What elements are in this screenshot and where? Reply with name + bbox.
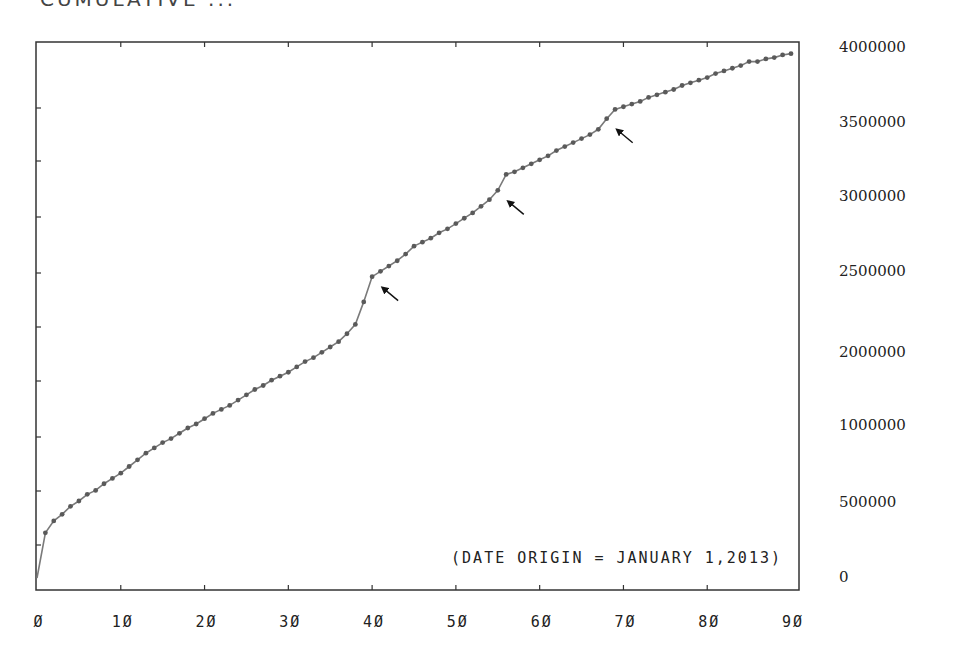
data-point (378, 269, 383, 274)
data-point (562, 144, 567, 149)
data-point (722, 68, 727, 73)
data-point (579, 136, 584, 141)
data-point (696, 78, 701, 83)
data-point (118, 471, 123, 476)
data-point (303, 359, 308, 364)
data-point (336, 339, 341, 344)
data-point (269, 378, 274, 383)
y-tick-label: 2500000 (839, 262, 906, 280)
data-point (319, 350, 324, 355)
data-point (194, 422, 199, 427)
y-tick-label: 2000000 (839, 343, 906, 361)
data-point (211, 411, 216, 416)
x-tick-label: 6Ø (531, 613, 553, 631)
data-point (286, 370, 291, 375)
x-axis-labels: Ø1Ø2Ø3Ø4Ø5Ø6Ø7Ø8Ø9Ø (33, 613, 804, 631)
x-tick-label: Ø (33, 613, 44, 631)
x-tick-label: 4Ø (363, 613, 385, 631)
line-chart: Ø1Ø2Ø3Ø4Ø5Ø6Ø7Ø8Ø9Ø 40000003500000300000… (0, 0, 960, 655)
arrow-icon (512, 204, 524, 214)
data-point (772, 55, 777, 60)
data-point (546, 153, 551, 158)
data-point (680, 83, 685, 88)
y-tick-label: 1000000 (839, 416, 906, 434)
data-point (445, 226, 450, 231)
data-point (705, 75, 710, 80)
data-point (152, 446, 157, 451)
data-point-markers (43, 51, 793, 535)
x-tick-label: 1Ø (112, 613, 134, 631)
data-point (219, 407, 224, 412)
x-axis-ticks (121, 42, 707, 590)
data-point (328, 345, 333, 350)
x-tick-label: 3Ø (279, 613, 301, 631)
y-tick-label: 500000 (839, 493, 896, 511)
data-point (278, 374, 283, 379)
data-point (479, 204, 484, 209)
data-point (588, 132, 593, 137)
data-point (529, 161, 534, 166)
arrow-icon (386, 291, 398, 301)
data-point (202, 416, 207, 421)
data-point (370, 274, 375, 279)
data-point (395, 258, 400, 263)
data-point (504, 172, 509, 177)
data-point (571, 140, 576, 145)
data-point (261, 383, 266, 388)
data-point (462, 216, 467, 221)
data-point (453, 221, 458, 226)
data-point (43, 530, 48, 535)
x-tick-label: 9Ø (782, 613, 804, 631)
data-point (663, 90, 668, 95)
data-point (604, 116, 609, 121)
data-point (51, 519, 56, 524)
data-point (60, 512, 65, 517)
data-point (512, 169, 517, 174)
x-tick-label: 5Ø (447, 613, 469, 631)
arrow-icon (621, 133, 633, 143)
data-point (76, 499, 81, 504)
data-point (227, 403, 232, 408)
data-point (596, 127, 601, 132)
data-point (85, 492, 90, 497)
y-tick-label: 4000000 (839, 38, 906, 56)
data-point (93, 488, 98, 493)
data-point (353, 322, 358, 327)
y-axis-labels: 4000000350000030000002500000200000010000… (839, 38, 906, 586)
data-point (102, 481, 107, 486)
data-point (713, 71, 718, 76)
data-point (428, 236, 433, 241)
data-point (671, 87, 676, 92)
data-point (789, 51, 794, 56)
data-point (755, 59, 760, 64)
x-tick-label: 8Ø (698, 613, 720, 631)
data-point (177, 431, 182, 436)
data-point (412, 244, 417, 249)
annotation-arrows (386, 133, 633, 301)
data-point (236, 398, 241, 403)
data-point (738, 63, 743, 68)
y-tick-label: 3000000 (839, 187, 906, 205)
x-tick-label: 7Ø (614, 613, 636, 631)
data-point (386, 264, 391, 269)
data-point (135, 457, 140, 462)
data-point (169, 436, 174, 441)
data-point (780, 53, 785, 58)
data-point (345, 331, 350, 336)
data-point (629, 102, 634, 107)
data-point (621, 104, 626, 109)
data-point (747, 59, 752, 64)
data-point (688, 80, 693, 85)
data-point (311, 355, 316, 360)
data-point (361, 299, 366, 304)
data-point (763, 57, 768, 62)
data-point (437, 230, 442, 235)
data-point (470, 211, 475, 216)
data-point (127, 464, 132, 469)
data-point (655, 92, 660, 97)
data-point (252, 387, 257, 392)
data-point (244, 392, 249, 397)
data-point (730, 66, 735, 71)
data-point (185, 426, 190, 431)
plot-frame (36, 42, 799, 590)
